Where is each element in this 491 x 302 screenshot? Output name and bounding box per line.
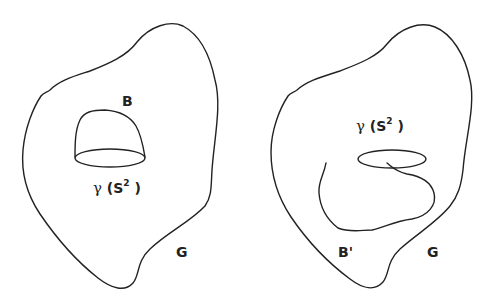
sphere-label-left: γ (S2 ) <box>93 181 141 196</box>
ball-b-dome <box>75 110 145 157</box>
sphere-close: ) <box>134 180 140 196</box>
sphere-open: (S <box>107 180 123 196</box>
region-g-outline-right <box>271 25 472 288</box>
gamma-symbol: γ <box>93 179 102 197</box>
region-label-g-left: G <box>176 245 188 259</box>
region-g-outline-left <box>23 24 218 289</box>
ball-label-b-prime: B' <box>338 245 353 259</box>
sphere-ellipse-right <box>358 150 426 168</box>
ball-label-b: B <box>122 94 133 108</box>
right-panel <box>271 25 472 288</box>
gamma-symbol: γ <box>356 117 365 135</box>
left-panel <box>23 24 218 289</box>
sphere-superscript: 2 <box>123 178 129 188</box>
ball-b-prime-body <box>319 163 435 231</box>
sphere-superscript: 2 <box>386 116 392 126</box>
sphere-close: ) <box>397 118 403 134</box>
sphere-label-right: γ (S2 ) <box>356 119 404 134</box>
sphere-open: (S <box>370 118 386 134</box>
region-label-g-right: G <box>427 245 439 259</box>
diagram-canvas <box>0 0 491 302</box>
sphere-ellipse-left <box>75 149 145 167</box>
